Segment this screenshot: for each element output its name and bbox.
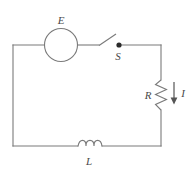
- switch-blade: [99, 34, 116, 46]
- inductor-symbol: [78, 140, 102, 146]
- circuit-diagram-figure: E S R L I: [0, 0, 190, 169]
- current-arrow-head: [171, 98, 178, 105]
- inductor-label: L: [85, 155, 92, 167]
- emf-source-symbol: [45, 29, 78, 62]
- switch-label: S: [115, 50, 121, 62]
- switch-node-dot: [116, 42, 121, 47]
- circuit-schematic: E S R L I: [0, 0, 190, 169]
- resistor-symbol: [156, 80, 167, 110]
- current-label: I: [180, 87, 186, 99]
- resistor-label: R: [144, 89, 152, 101]
- emf-label: E: [57, 14, 65, 26]
